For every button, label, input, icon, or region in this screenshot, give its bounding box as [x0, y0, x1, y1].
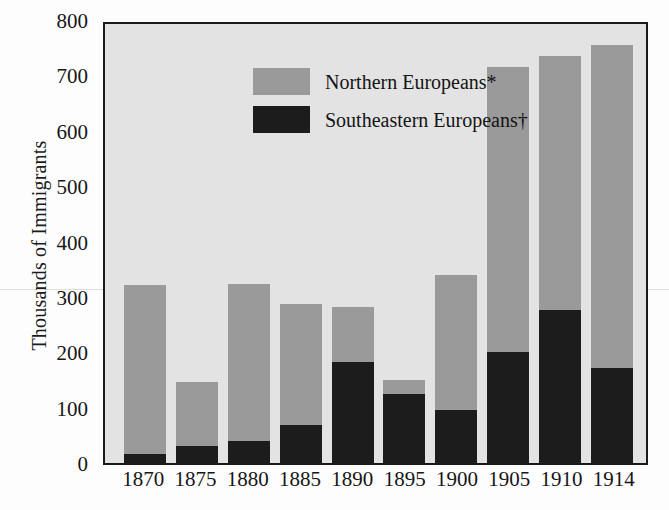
legend-item-southeastern: Southeastern Europeans†: [253, 106, 528, 133]
x-tick-label: 1870: [117, 469, 169, 490]
y-tick-label: 100: [32, 399, 88, 420]
x-tick-label: 1885: [274, 469, 326, 490]
legend-label-southeastern: Southeastern Europeans†: [325, 110, 528, 130]
x-tick-label: 1900: [431, 469, 483, 490]
y-tick-label: 800: [32, 11, 88, 32]
bar-segment-northern: [539, 56, 581, 311]
y-tick-label: 600: [32, 122, 88, 143]
bar-segment-southeastern: [487, 352, 529, 463]
bar-segment-southeastern: [176, 446, 218, 463]
stacked-bar: [124, 285, 166, 463]
bar-segment-southeastern: [383, 394, 425, 463]
x-tick-label: 1910: [535, 469, 587, 490]
x-tick-label: 1895: [378, 469, 430, 490]
y-tick-label: 700: [32, 66, 88, 87]
bar-segment-northern: [383, 380, 425, 395]
bar-segment-northern: [124, 285, 166, 455]
x-tick-label: 1890: [326, 469, 378, 490]
x-axis-tick-labels: 1870187518801885189018951900190519101914: [103, 469, 648, 490]
stacked-bar: [591, 45, 633, 463]
legend-item-northern: Northern Europeans*: [253, 68, 528, 95]
x-tick-label: 1914: [588, 469, 640, 490]
x-tick-label: 1880: [222, 469, 274, 490]
stacked-bar: [176, 382, 218, 463]
bar-segment-southeastern: [539, 310, 581, 463]
legend-label-northern: Northern Europeans*: [325, 72, 497, 92]
bar-segment-southeastern: [124, 454, 166, 463]
bar-segment-northern: [228, 284, 270, 441]
bar-slot: [586, 24, 638, 463]
bar-slot: [171, 24, 223, 463]
y-tick-label: 500: [32, 177, 88, 198]
bar-segment-southeastern: [228, 441, 270, 463]
x-tick-label: 1905: [483, 469, 535, 490]
stacked-bar: [332, 307, 374, 463]
bar-segment-northern: [435, 275, 477, 410]
bar-segment-northern: [280, 304, 322, 424]
plot-area: Northern Europeans* Southeastern Europea…: [103, 22, 648, 465]
stacked-bar: [383, 380, 425, 463]
stacked-bar: [435, 275, 477, 463]
bar-segment-southeastern: [591, 368, 633, 463]
legend-swatch-northern-icon: [253, 68, 310, 95]
bar-segment-northern: [332, 307, 374, 362]
bar-segment-southeastern: [435, 410, 477, 463]
immigration-bar-chart: Thousands of Immigrants 8007006005004003…: [0, 0, 669, 510]
y-tick-label: 0: [32, 454, 88, 475]
stacked-bar: [280, 304, 322, 463]
legend: Northern Europeans* Southeastern Europea…: [253, 68, 528, 144]
y-tick-label: 300: [32, 288, 88, 309]
y-axis-ticks: 8007006005004003002001000: [24, 0, 88, 510]
y-tick-label: 400: [32, 233, 88, 254]
legend-swatch-southeastern-icon: [253, 106, 310, 133]
bar-segment-southeastern: [280, 425, 322, 463]
bar-slot: [534, 24, 586, 463]
stacked-bar: [228, 284, 270, 463]
y-tick-label: 200: [32, 343, 88, 364]
x-tick-label: 1875: [169, 469, 221, 490]
stacked-bar: [539, 56, 581, 463]
bar-segment-southeastern: [332, 362, 374, 463]
bar-segment-northern: [176, 382, 218, 446]
bar-segment-northern: [591, 45, 633, 368]
bar-slot: [119, 24, 171, 463]
